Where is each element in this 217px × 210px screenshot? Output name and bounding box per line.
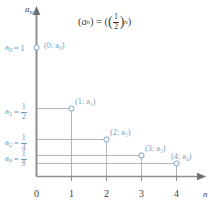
x-tick-label-4: 4 — [170, 189, 184, 199]
data-point-4 — [174, 161, 179, 166]
y-value-label-a3: a3 = 1 8 — [5, 150, 27, 168]
x-tick-label-3: 3 — [135, 189, 149, 199]
x-tick-label-1: 1 — [65, 189, 79, 199]
point-label-4: (4; a₄) — [171, 153, 192, 161]
y-value-label-a1: a1 = 1 2 — [5, 103, 27, 121]
y-axis-label: an — [25, 5, 33, 15]
point-label-2: (2; a₂) — [110, 129, 131, 137]
x-axis — [37, 173, 207, 180]
formula-denominator: 2 — [113, 23, 119, 32]
point-label-3: (3; a₃) — [145, 145, 166, 153]
drop-lines — [72, 109, 177, 177]
level-lines — [37, 109, 177, 164]
sequence-plot-figure: (an) = (( 1 2 )n) an n a0 = 1 a1 = 1 2 a… — [0, 0, 217, 210]
data-point-1 — [69, 106, 74, 111]
x-tick-label-2: 2 — [100, 189, 114, 199]
y-value-fraction-a1: 1 2 — [21, 103, 27, 121]
data-point-0 — [34, 45, 39, 50]
y-axis — [33, 6, 41, 177]
plot-canvas — [0, 0, 217, 210]
title-formula: (an) = (( 1 2 )n) — [78, 13, 131, 31]
x-tick-label-0: 0 — [30, 189, 44, 199]
y-value-fraction-a3: 1 8 — [21, 150, 27, 168]
point-label-0: (0; a₀) — [44, 42, 65, 50]
x-axis-label: n — [203, 190, 208, 199]
formula-fraction: 1 2 — [113, 13, 119, 31]
formula-numerator: 1 — [113, 13, 119, 22]
y-value-label-a0: a0 = 1 — [5, 43, 25, 53]
formula-equals: = — [94, 17, 105, 28]
data-point-2 — [104, 137, 109, 142]
data-point-3 — [139, 153, 144, 158]
point-label-1: (1; a₁) — [75, 98, 96, 106]
